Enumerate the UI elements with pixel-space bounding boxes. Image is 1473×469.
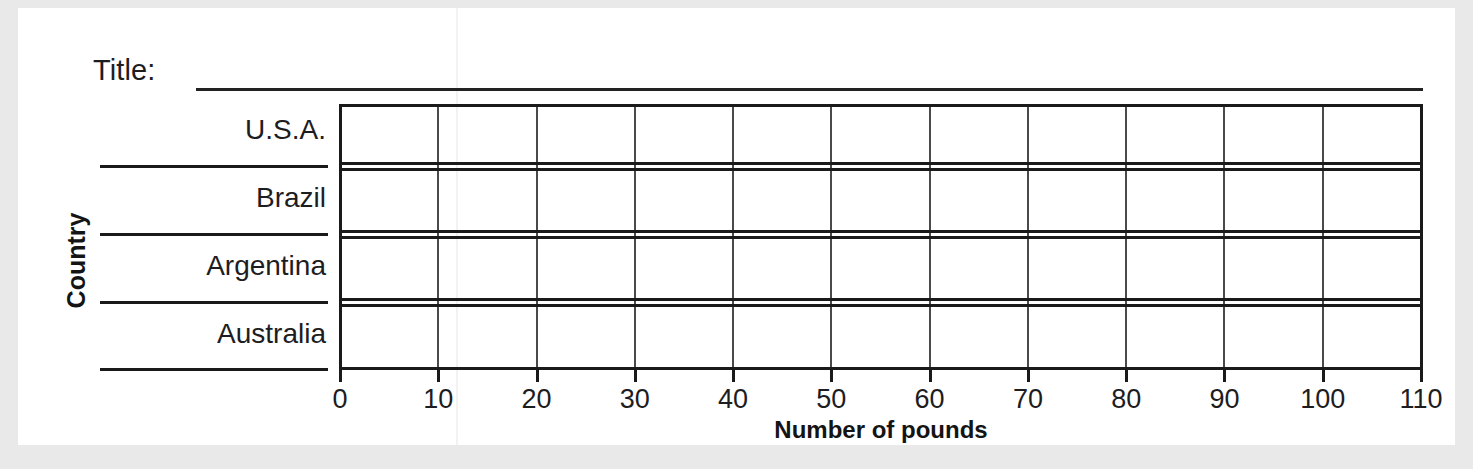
- title-blank-line[interactable]: [196, 88, 1423, 91]
- row-separator-lower: [339, 168, 1423, 171]
- x-tick-mark: [536, 370, 539, 382]
- category-rule: [100, 301, 328, 304]
- x-tick-mark: [732, 370, 735, 382]
- category-label-brazil: Brazil: [100, 182, 340, 214]
- x-tick-mark: [830, 370, 833, 382]
- x-tick-label: 40: [688, 384, 778, 415]
- x-tick-mark: [339, 370, 342, 382]
- x-tick-label: 30: [590, 384, 680, 415]
- plot-frame-left: [339, 104, 342, 370]
- worksheet-page: Title: Country U.S.A. Brazil Argentina A…: [18, 8, 1455, 445]
- x-tick-mark: [929, 370, 932, 382]
- x-tick-label: 80: [1081, 384, 1171, 415]
- row-separator-upper: [339, 298, 1423, 301]
- x-tick-label: 60: [885, 384, 975, 415]
- x-tick-label: 70: [983, 384, 1073, 415]
- plot-area[interactable]: [339, 104, 1423, 370]
- worksheet-screen: Title: Country U.S.A. Brazil Argentina A…: [0, 0, 1473, 469]
- row-separator-upper: [339, 230, 1423, 233]
- x-tick-label: 110: [1376, 384, 1466, 415]
- x-tick-label: 90: [1179, 384, 1269, 415]
- category-label-australia: Australia: [100, 318, 340, 350]
- x-tick-mark: [1125, 370, 1128, 382]
- x-tick-label: 50: [786, 384, 876, 415]
- x-tick-mark: [1027, 370, 1030, 382]
- x-tick-mark: [1223, 370, 1226, 382]
- y-axis-title: Country: [62, 186, 91, 336]
- plot-frame-top: [339, 104, 1423, 107]
- x-tick-mark: [634, 370, 637, 382]
- category-rule: [100, 368, 328, 371]
- x-tick-label: 20: [492, 384, 582, 415]
- x-tick-label: 10: [393, 384, 483, 415]
- category-label-column: U.S.A. Brazil Argentina Australia: [88, 8, 340, 445]
- x-tick-mark: [437, 370, 440, 382]
- category-label-argentina: Argentina: [100, 250, 340, 282]
- category-rule: [100, 233, 328, 236]
- row-separator-lower: [339, 236, 1423, 239]
- x-tick-label: 100: [1278, 384, 1368, 415]
- x-tick-mark: [1322, 370, 1325, 382]
- x-tick-label: 0: [295, 384, 385, 415]
- plot-frame-right: [1420, 104, 1423, 370]
- x-tick-mark: [1420, 370, 1423, 382]
- category-rule: [100, 165, 328, 168]
- row-separator-upper: [339, 162, 1423, 165]
- x-axis-title: Number of pounds: [339, 416, 1423, 444]
- plot-frame-bottom: [339, 367, 1423, 370]
- row-separator-lower: [339, 304, 1423, 307]
- category-label-usa: U.S.A.: [100, 114, 340, 146]
